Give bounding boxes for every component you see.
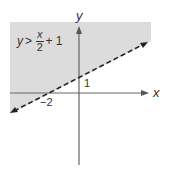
fraction-denominator: 2: [37, 42, 43, 54]
fraction-numerator: x: [36, 29, 44, 42]
inequality-lhs: y: [17, 34, 23, 48]
x-axis-arrow-icon: [141, 90, 149, 96]
x-axis-label: x: [153, 86, 160, 99]
inequality-constant: + 1: [46, 34, 63, 48]
inequality-label: y > x 2 + 1: [17, 29, 63, 53]
x-intercept-label: −2: [40, 97, 53, 108]
inequality-fraction: x 2: [36, 29, 44, 53]
y-axis-label: y: [76, 9, 83, 22]
inequality-operator: >: [25, 34, 32, 48]
y-intercept-label: 1: [84, 78, 90, 89]
